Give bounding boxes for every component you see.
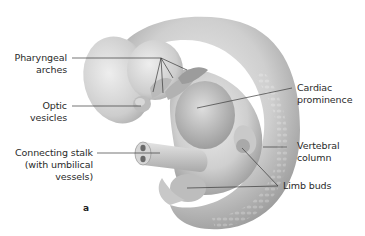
embryo-body xyxy=(74,17,300,230)
label-line: Optic xyxy=(0,100,67,112)
label-line: vesicles xyxy=(0,112,67,124)
label-line: Connecting stalk xyxy=(0,147,93,159)
panel-letter: a xyxy=(83,203,89,213)
label-pharyngeal-arches: Pharyngeal arches xyxy=(0,52,67,76)
label-connecting-stalk: Connecting stalk (with umbilical vessels… xyxy=(0,147,93,183)
label-line: Vertebral xyxy=(297,140,340,152)
embryo-figure: Pharyngeal arches Optic vesicles Connect… xyxy=(0,0,365,236)
label-line: vessels) xyxy=(0,171,93,183)
label-vertebral-column: Vertebral column xyxy=(297,140,340,164)
label-cardiac-prominence: Cardiac prominence xyxy=(297,82,352,106)
label-line: column xyxy=(297,152,340,164)
label-limb-buds: Limb buds xyxy=(283,180,331,192)
label-line: Cardiac xyxy=(297,82,352,94)
label-line: (with umbilical xyxy=(0,159,93,171)
label-line: arches xyxy=(0,64,67,76)
label-optic-vesicles: Optic vesicles xyxy=(0,100,67,124)
label-line: prominence xyxy=(297,94,352,106)
label-line: Pharyngeal xyxy=(0,52,67,64)
label-line: Limb buds xyxy=(283,180,331,192)
